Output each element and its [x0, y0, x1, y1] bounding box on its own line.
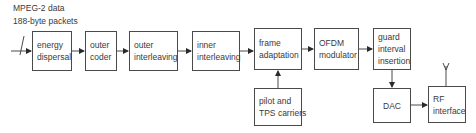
block-label: RF — [433, 93, 461, 105]
block-dac: DAC — [373, 88, 411, 123]
block-label: modulator — [319, 49, 354, 61]
input-label-line2: 188-byte packets — [13, 15, 78, 27]
block-ofdm-modulator: OFDM modulator — [314, 28, 359, 70]
block-label: interval — [378, 43, 406, 55]
block-label: pilot and — [259, 95, 297, 107]
block-label: adaptation — [259, 49, 297, 61]
antenna-icon — [440, 60, 452, 74]
block-frame-adaptation: frame adaptation — [254, 28, 302, 70]
block-label: interleaving — [134, 51, 173, 63]
block-inner-interleaving: inner interleaving — [192, 31, 240, 71]
block-label: TPS carriers — [259, 107, 297, 119]
block-energy-dispersal: energy dispersal — [32, 31, 72, 71]
block-label: insertion — [378, 55, 406, 67]
block-label: outer — [90, 39, 112, 51]
block-guard-interval-insertion: guard interval insertion — [373, 28, 411, 70]
input-label-line1: MPEG-2 data — [13, 2, 65, 14]
block-label: energy — [37, 39, 67, 51]
block-label: interleaving — [197, 51, 235, 63]
block-label: dispersal — [37, 51, 67, 63]
block-label: frame — [259, 37, 297, 49]
block-rf-interface: RF interface — [428, 86, 466, 123]
block-label: guard — [378, 31, 406, 43]
block-label: coder — [90, 51, 112, 63]
block-label: inner — [197, 39, 235, 51]
block-label: OFDM — [319, 37, 354, 49]
block-outer-coder: outer coder — [85, 31, 117, 71]
block-label: outer — [134, 39, 173, 51]
block-label: interface — [433, 105, 461, 117]
block-label: DAC — [383, 100, 401, 112]
block-outer-interleaving: outer interleaving — [129, 31, 178, 71]
block-pilot-tps-carriers: pilot and TPS carriers — [254, 88, 302, 126]
